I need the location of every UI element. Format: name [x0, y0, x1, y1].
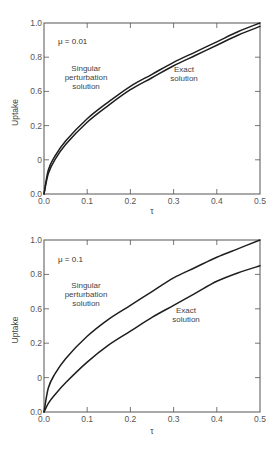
y-tick-label: 0.0 [30, 189, 42, 199]
singular-perturbation-label: solution [72, 299, 100, 308]
y-tick-label: 0.2 [30, 338, 42, 348]
y-tick-label: 0.8 [30, 52, 42, 62]
y-tick-label: 0.0 [30, 407, 42, 417]
y-tick-label: 0.6 [30, 304, 42, 314]
mu-annotation: μ = 0.01 [58, 37, 88, 46]
y-tick-label: 0 [37, 373, 42, 383]
mu-annotation: μ = 0.1 [58, 255, 83, 264]
x-axis-title: τ [150, 426, 154, 436]
y-tick-label: 0 [37, 155, 42, 165]
plot-frame [44, 240, 260, 412]
singular-perturbation-curve [44, 240, 260, 412]
singular-perturbation-label: Singular [71, 281, 101, 290]
x-tick-label: 0.4 [211, 196, 223, 206]
y-tick-label: 0.2 [30, 121, 42, 131]
x-tick-label: 0.5 [254, 196, 266, 206]
y-tick-label: 0.8 [30, 269, 42, 279]
y-axis-title: Uptake [10, 99, 20, 126]
y-tick-label: 1.0 [30, 18, 42, 28]
exact-solution-label: Exact [176, 306, 197, 315]
x-tick-label: 0.1 [81, 414, 93, 424]
chart-mu-0.1: 0.00.10.20.30.40.50.000.20.60.81.0τUptak… [10, 235, 266, 436]
singular-perturbation-label: perturbation [65, 73, 108, 82]
y-tick-label: 1.0 [30, 235, 42, 245]
x-tick-label: 0.3 [168, 196, 180, 206]
singular-perturbation-curve [44, 23, 260, 194]
chart-mu-0.01: 0.00.10.20.30.40.50.000.20.60.81.0τUptak… [10, 18, 266, 216]
singular-perturbation-label: solution [72, 82, 100, 91]
singular-perturbation-label: Singular [71, 64, 101, 73]
exact-solution-curve [44, 26, 260, 194]
figure: 0.00.10.20.30.40.50.000.20.60.81.0τUptak… [0, 0, 279, 453]
x-tick-label: 0.5 [254, 414, 266, 424]
y-tick-label: 0.6 [30, 86, 42, 96]
exact-solution-label: solution [170, 74, 198, 83]
singular-perturbation-label: perturbation [65, 290, 108, 299]
y-axis-title: Uptake [10, 316, 20, 343]
x-tick-label: 0.4 [211, 414, 223, 424]
plot-frame [44, 23, 260, 194]
exact-solution-label: solution [172, 315, 200, 324]
x-tick-label: 0.2 [124, 414, 136, 424]
exact-solution-label: Exact [174, 65, 195, 74]
x-tick-label: 0.2 [124, 196, 136, 206]
x-tick-label: 0.1 [81, 196, 93, 206]
x-tick-label: 0.3 [168, 414, 180, 424]
x-axis-title: τ [150, 206, 154, 216]
